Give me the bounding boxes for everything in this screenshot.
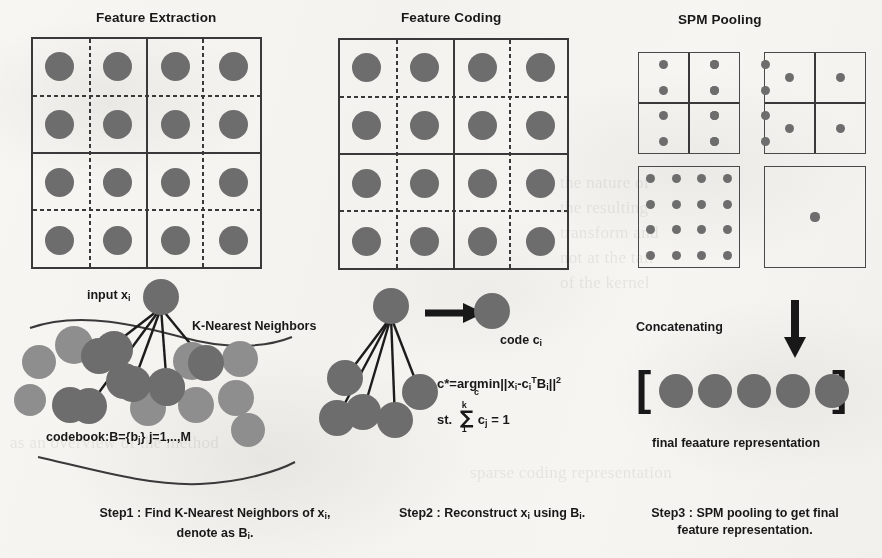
- step2-caption-line1: Step2 : Reconstruct xi using Bi.: [399, 505, 585, 525]
- spm-level2-left-dot: [761, 137, 770, 146]
- step3-caption: Step3 : SPM pooling to get final feature…: [615, 505, 875, 539]
- step3-caption-line1: Step3 : SPM pooling to get final: [615, 505, 875, 522]
- spm-level2-left-dot: [761, 86, 770, 95]
- spm-level1-left-dot: [723, 251, 732, 260]
- input-label: input xi: [87, 288, 130, 303]
- feature-coding-dot: [468, 169, 497, 198]
- step2-caption: Step2 : Reconstruct xi using Bi.: [399, 505, 585, 525]
- feature-coding-dot: [526, 227, 555, 256]
- knn-label: K-Nearest Neighbors: [192, 319, 316, 333]
- figure-canvas: the nature ofthe resultingtransform andn…: [0, 0, 882, 558]
- feature-extraction-dot: [161, 110, 190, 139]
- spm-level1-left-dot: [672, 200, 681, 209]
- spm-level1-left-dot: [672, 251, 681, 260]
- grid-dotted-vline-2: [202, 39, 204, 267]
- feature-coding-dot: [410, 111, 439, 140]
- codebook-node: [231, 413, 265, 447]
- objective-formula: c*=argminc||xi-ciTBi||2: [437, 375, 561, 392]
- feature-extraction-dot: [219, 168, 248, 197]
- step1-caption: Step1 : Find K-Nearest Neighbors of xi, …: [30, 505, 400, 545]
- feature-coding-dot: [352, 169, 381, 198]
- step2-neighbor-node: [327, 360, 363, 396]
- spm-level2-left-dot: [659, 137, 668, 146]
- input-node: [143, 279, 179, 315]
- knn-neighbor-node: [188, 345, 224, 381]
- grid-dotted-hline-2: [340, 210, 567, 212]
- feature-coding-dot: [468, 111, 497, 140]
- feature-coding-dot: [410, 227, 439, 256]
- feature-extraction-dot: [103, 110, 132, 139]
- codebook-node: [218, 380, 254, 416]
- grid-dotted-hline-2: [33, 209, 260, 211]
- spm-solid-hline: [639, 102, 739, 104]
- feature-extraction-dot: [103, 52, 132, 81]
- spm-level2-left-dot: [659, 86, 668, 95]
- panel-title-feature-extraction: Feature Extraction: [96, 10, 216, 25]
- feature-extraction-dot: [45, 226, 74, 255]
- feature-extraction-dot: [219, 110, 248, 139]
- spm-level2-right-box: [764, 52, 866, 154]
- spm-level2-left-box: [638, 52, 740, 154]
- grid-dotted-hline-1: [33, 95, 260, 97]
- feature-coding-dot: [352, 53, 381, 82]
- grid-dotted-vline-1: [89, 39, 91, 267]
- feature-coding-dot: [468, 227, 497, 256]
- knn-neighbor-node: [115, 366, 151, 402]
- panel-title-spm-pooling: SPM Pooling: [678, 12, 762, 27]
- step2-neighbor-node: [402, 374, 438, 410]
- feature-extraction-dot: [161, 226, 190, 255]
- step2-neighbor-node: [377, 402, 413, 438]
- codebook-bottom-curve: [38, 457, 295, 484]
- feature-vector-dot: [737, 374, 771, 408]
- feature-extraction-dot: [219, 52, 248, 81]
- ghost-text-col2: sparse coding representation: [470, 460, 870, 485]
- codebook-node: [14, 384, 46, 416]
- knn-neighbor-node: [71, 388, 107, 424]
- step1-caption-line2: denote as Bi.: [30, 525, 400, 545]
- feature-coding-dot: [410, 169, 439, 198]
- step3-caption-line2: feature representation.: [615, 522, 875, 539]
- feature-vector-dot: [815, 374, 849, 408]
- feature-extraction-dot: [45, 110, 74, 139]
- feature-vector-dot: [659, 374, 693, 408]
- knn-neighbor-node: [81, 338, 117, 374]
- codebook-node: [222, 341, 258, 377]
- spm-level1-left-dot: [723, 200, 732, 209]
- feature-coding-dot: [352, 227, 381, 256]
- feature-coding-dot: [468, 53, 497, 82]
- step1-caption-line1: Step1 : Find K-Nearest Neighbors of xi,: [30, 505, 400, 525]
- feature-extraction-dot: [45, 52, 74, 81]
- grid-solid-hline: [33, 152, 260, 154]
- feature-extraction-dot: [219, 226, 248, 255]
- feature-extraction-dot: [161, 52, 190, 81]
- feature-coding-dot: [526, 169, 555, 198]
- concatenating-down-arrow: [784, 300, 806, 358]
- feature-extraction-dot: [103, 168, 132, 197]
- spm-level2-left-dot: [710, 86, 719, 95]
- constraint-formula: st. k∑1cj = 1: [437, 411, 510, 428]
- feature-vector-dot: [776, 374, 810, 408]
- feature-extraction-dot: [45, 168, 74, 197]
- step2-neighbor-node: [345, 394, 381, 430]
- feature-extraction-dot: [103, 226, 132, 255]
- feature-extraction-dot: [161, 168, 190, 197]
- feature-coding-dot: [410, 53, 439, 82]
- grid-solid-hline: [340, 153, 567, 155]
- vector-open-bracket: [: [636, 365, 651, 411]
- code-label: code ci: [500, 333, 542, 348]
- step2-center-node: [373, 288, 409, 324]
- spm-level2-left-dot: [710, 137, 719, 146]
- grid-dotted-vline-1: [396, 40, 398, 268]
- feature-coding-dot: [526, 53, 555, 82]
- knn-neighbor-node: [149, 370, 185, 406]
- final-representation-label: final feaature representation: [652, 436, 820, 450]
- grid-dotted-vline-2: [509, 40, 511, 268]
- feature-coding-dot: [352, 111, 381, 140]
- feature-vector-dot: [698, 374, 732, 408]
- feature-coding-dot: [526, 111, 555, 140]
- concatenating-label: Concatenating: [636, 320, 723, 334]
- panel-title-feature-coding: Feature Coding: [401, 10, 501, 25]
- codebook-node: [22, 345, 56, 379]
- code-node: [474, 293, 510, 329]
- spm-solid-hline: [765, 102, 865, 104]
